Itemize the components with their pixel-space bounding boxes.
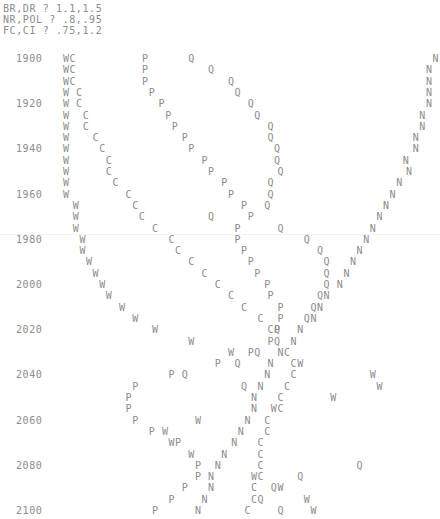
series-w-point: W: [62, 132, 69, 143]
series-c-point: C: [152, 223, 159, 234]
series-q-point: Q: [277, 166, 284, 177]
series-w-point: W: [62, 189, 69, 200]
series-n-point: N: [425, 76, 432, 87]
series-p-point: P: [208, 166, 215, 177]
series-n-point: N: [336, 279, 343, 290]
series-c-point: C: [69, 76, 76, 87]
series-w-point: W: [152, 324, 159, 335]
series-p-point: P: [188, 143, 195, 154]
series-n-point: N: [363, 234, 370, 245]
series-w-point: W: [62, 166, 69, 177]
series-n-point: N: [251, 403, 258, 414]
series-n-point: N: [356, 245, 363, 256]
series-n-point: N: [290, 336, 297, 347]
series-w-point: W: [310, 505, 317, 516]
series-q-point: Q: [227, 76, 234, 87]
series-p-point: P: [194, 471, 201, 482]
series-c-point: C: [257, 437, 264, 448]
series-c-point: C: [76, 98, 83, 109]
year-tick-label: 2020: [16, 324, 42, 335]
series-w-point: W: [227, 347, 234, 358]
series-w-point: W: [188, 336, 195, 347]
series-c-point: C: [257, 471, 264, 482]
series-w-point: W: [72, 200, 79, 211]
series-w-point: W: [297, 358, 304, 369]
series-q-point: Q: [323, 279, 330, 290]
series-c-point: C: [257, 449, 264, 460]
series-p-point: P: [148, 426, 155, 437]
series-n-point: N: [412, 143, 419, 154]
series-p-point: P: [227, 189, 234, 200]
series-w-point: W: [86, 256, 93, 267]
prompt-br-dr: BR,DR ? 1.1,1.5: [3, 3, 102, 14]
series-q-point: Q: [241, 381, 248, 392]
series-n-point: N: [396, 177, 403, 188]
series-w-point: W: [79, 234, 86, 245]
year-tick-label: 1980: [16, 234, 42, 245]
series-w-point: W: [330, 392, 337, 403]
series-q-point: Q: [297, 471, 304, 482]
series-q-point: Q: [277, 223, 284, 234]
series-q-point: Q: [270, 482, 277, 493]
series-w-point: W: [62, 121, 69, 132]
series-q-point: Q: [254, 347, 261, 358]
series-w-point: W: [303, 494, 310, 505]
series-q-point: Q: [323, 268, 330, 279]
series-p-point: P: [132, 381, 139, 392]
series-p-point: P: [142, 76, 149, 87]
series-n-point: N: [376, 211, 383, 222]
year-tick-label: 1940: [16, 143, 42, 154]
year-tick-label: 2040: [16, 369, 42, 380]
series-p-point: P: [171, 121, 178, 132]
series-n-point: N: [419, 121, 426, 132]
series-p-point: P: [247, 256, 254, 267]
series-c-point: C: [284, 381, 291, 392]
series-p-point: P: [214, 358, 221, 369]
series-w-point: W: [369, 369, 376, 380]
series-c-point: C: [257, 460, 264, 471]
series-p-point: P: [152, 505, 159, 516]
year-tick-label: 2080: [16, 460, 42, 471]
series-q-point: Q: [274, 155, 281, 166]
series-n-point: N: [383, 200, 390, 211]
series-c-point: C: [112, 177, 119, 188]
series-p-point: P: [168, 494, 175, 505]
series-q-point: Q: [274, 336, 281, 347]
series-c-point: C: [284, 347, 291, 358]
series-w-point: W: [161, 426, 168, 437]
series-n-point: N: [419, 110, 426, 121]
series-p-point: P: [254, 268, 261, 279]
prompt-nr-pol: NR,POL ? .8,.95: [3, 14, 102, 25]
series-n-point: N: [251, 392, 258, 403]
series-q-point: Q: [274, 324, 281, 335]
series-w-point: W: [92, 268, 99, 279]
series-p-point: P: [241, 245, 248, 256]
series-q-point: Q: [257, 494, 264, 505]
series-q-point: Q: [208, 64, 215, 75]
series-q-point: Q: [274, 143, 281, 154]
series-p-point: P: [165, 110, 172, 121]
series-c-point: C: [175, 245, 182, 256]
series-c-point: C: [168, 234, 175, 245]
series-n-point: N: [231, 437, 238, 448]
series-n-point: N: [221, 449, 228, 460]
series-p-point: P: [264, 279, 271, 290]
series-c-point: C: [244, 505, 251, 516]
series-p-point: P: [175, 437, 182, 448]
series-n-point: N: [257, 381, 264, 392]
series-c-point: C: [290, 358, 297, 369]
series-n-point: N: [237, 426, 244, 437]
series-c-point: C: [82, 110, 89, 121]
series-c-point: C: [201, 268, 208, 279]
series-q-point: Q: [303, 234, 310, 245]
series-c-point: C: [69, 53, 76, 64]
series-n-point: N: [317, 302, 324, 313]
year-tick-label: 2100: [16, 505, 42, 516]
series-q-point: Q: [277, 505, 284, 516]
series-n-point: N: [389, 189, 396, 200]
series-w-point: W: [105, 290, 112, 301]
series-q-point: Q: [247, 98, 254, 109]
year-tick-label: 1920: [16, 98, 42, 109]
series-c-point: C: [125, 189, 132, 200]
series-q-point: Q: [356, 460, 363, 471]
